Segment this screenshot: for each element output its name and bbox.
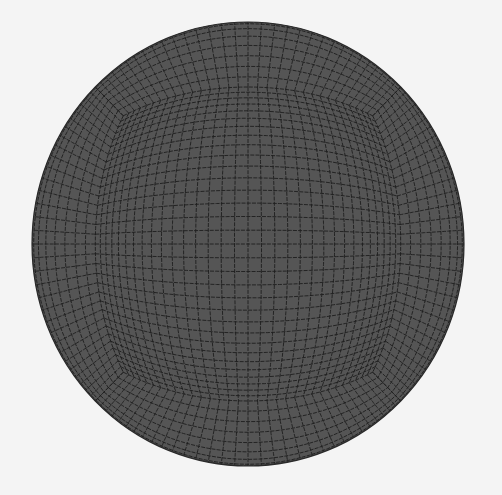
mesh-lines — [32, 22, 464, 466]
sphere-mesh-graphic — [0, 0, 502, 495]
mesh-figure — [0, 0, 502, 495]
